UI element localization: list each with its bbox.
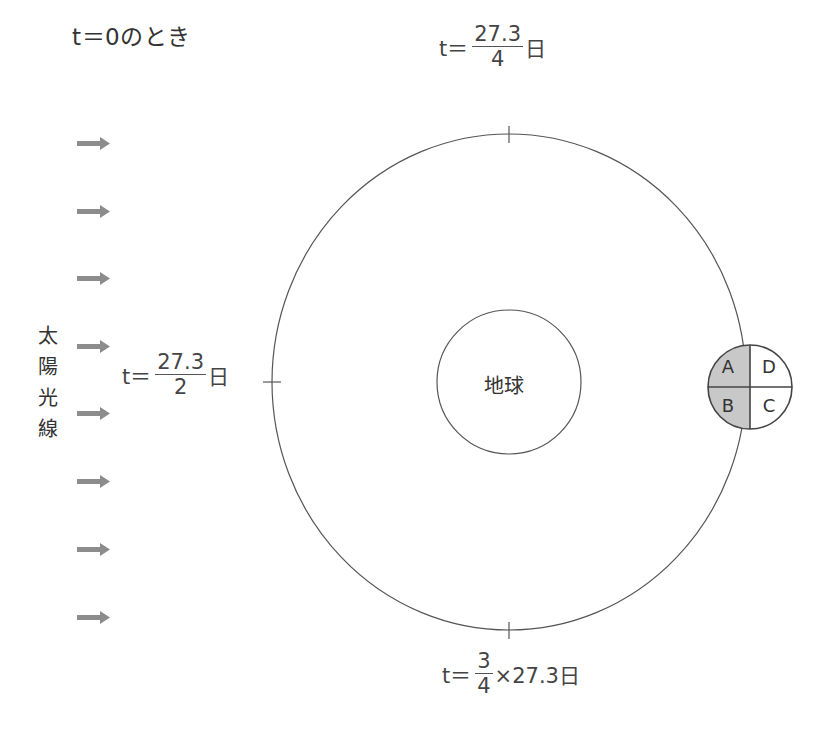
fraction: 3 4 (475, 651, 492, 697)
label-prefix: t＝ (439, 32, 468, 62)
fraction: 27.3 4 (472, 24, 523, 70)
label-suffix: 日 (525, 32, 546, 62)
arrow-icon (77, 543, 110, 556)
arrow-icon (77, 137, 110, 150)
label-half-period: t＝ 27.3 2 日 (122, 352, 229, 398)
denominator: 4 (477, 674, 490, 697)
moon-quadrant-a: A (718, 356, 738, 377)
label-three-quarter-period: t＝ 3 4 ×27.3日 (442, 651, 580, 697)
sunlight-char: 太 (36, 321, 60, 352)
sunlight-char: 陽 (36, 352, 60, 383)
diagram-title: t＝0のとき (72, 18, 191, 52)
sunlight-label: 太 陽 光 線 (36, 321, 60, 445)
numerator: 27.3 (472, 24, 523, 47)
sunlight-char: 光 (36, 383, 60, 414)
moon-quadrant-c: C (759, 395, 779, 416)
arrow-icon (77, 340, 110, 353)
sunlight-char: 線 (36, 414, 60, 445)
moon-quadrant-b: B (718, 395, 738, 416)
label-prefix: t＝ (442, 659, 471, 689)
arrow-icon (77, 611, 110, 624)
label-suffix: 日 (208, 360, 229, 390)
sunlight-arrows (77, 137, 110, 624)
arrow-icon (77, 272, 110, 285)
earth-label: 地球 (484, 370, 524, 399)
arrow-icon (77, 407, 110, 420)
arrow-icon (77, 475, 110, 488)
arrow-icon (77, 205, 110, 218)
numerator: 27.3 (155, 352, 206, 375)
label-suffix: ×27.3日 (495, 659, 580, 689)
fraction: 27.3 2 (155, 352, 206, 398)
label-quarter-period: t＝ 27.3 4 日 (439, 24, 546, 70)
moon-quadrant-d: D (759, 356, 779, 377)
denominator: 2 (174, 375, 187, 398)
numerator: 3 (475, 651, 492, 674)
label-prefix: t＝ (122, 360, 151, 390)
denominator: 4 (491, 47, 504, 70)
